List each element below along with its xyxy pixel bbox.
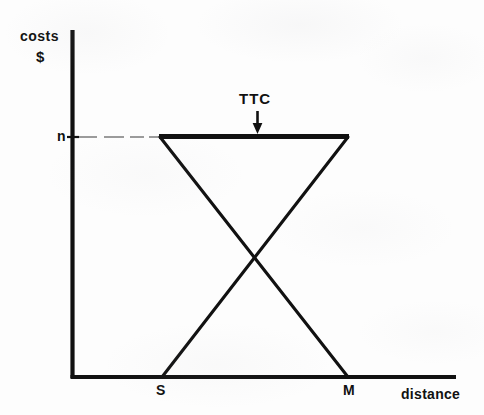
figure-container: costs $ n TTC S M distance	[0, 0, 484, 415]
x-axis-tick-label-m: M	[343, 382, 355, 398]
ttc-annotation-label: TTC	[239, 90, 271, 107]
y-axis-tick-label-n: n	[57, 128, 66, 144]
y-axis-label-costs: costs	[20, 28, 59, 44]
x-axis-tick-label-s: S	[156, 382, 166, 398]
ttc-diagram-svg	[0, 0, 484, 415]
x-axis-label-distance: distance	[401, 386, 460, 402]
ttc-arrow-icon	[253, 111, 263, 134]
y-axis-label-currency: $	[36, 48, 45, 65]
